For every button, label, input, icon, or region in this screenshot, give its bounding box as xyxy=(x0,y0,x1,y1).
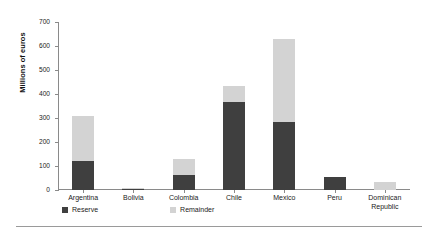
x-axis-label-dominican-republic: Dominican Republic xyxy=(360,194,410,211)
bar-chile[interactable] xyxy=(223,86,245,190)
y-axis-tick-label: 400 xyxy=(10,91,50,98)
y-axis-tick-label: 0 xyxy=(10,187,50,194)
x-axis-label-mexico: Mexico xyxy=(259,194,309,203)
bar-segment-remainder xyxy=(374,182,396,190)
y-axis-tick xyxy=(55,46,59,47)
y-axis-tick-label: 200 xyxy=(10,139,50,146)
y-axis-tick xyxy=(55,22,59,23)
bar-segment-remainder xyxy=(122,188,144,190)
y-axis-tick xyxy=(55,118,59,119)
bar-peru[interactable] xyxy=(324,177,346,190)
y-axis-tick xyxy=(55,166,59,167)
y-axis-tick-label: 600 xyxy=(10,43,50,50)
bar-segment-remainder xyxy=(223,86,245,103)
bar-segment-remainder xyxy=(273,39,295,122)
legend-swatch-icon xyxy=(170,207,176,213)
legend-label: Remainder xyxy=(180,206,214,213)
y-axis-tick xyxy=(55,190,59,191)
bar-segment-reserve xyxy=(173,175,195,190)
x-axis-label-argentina: Argentina xyxy=(58,194,108,203)
y-axis-tick xyxy=(55,142,59,143)
y-axis-tick xyxy=(55,94,59,95)
bar-segment-reserve xyxy=(72,161,94,190)
y-axis-tick-label: 100 xyxy=(10,163,50,170)
bar-segment-remainder xyxy=(72,116,94,162)
chart-legend: ReserveRemainder xyxy=(62,206,214,213)
bar-segment-reserve xyxy=(273,122,295,190)
bar-segment-reserve xyxy=(324,177,346,190)
bottom-divider xyxy=(16,226,422,227)
chart-figure: Millions of euros 0100200300400500600700… xyxy=(0,0,435,240)
bar-dominican-republic[interactable] xyxy=(374,182,396,190)
x-axis-label-colombia: Colombia xyxy=(159,194,209,203)
y-axis-tick-label: 500 xyxy=(10,67,50,74)
x-axis-label-bolivia: Bolivia xyxy=(108,194,158,203)
x-axis-label-chile: Chile xyxy=(209,194,259,203)
y-axis-tick-label: 300 xyxy=(10,115,50,122)
legend-label: Reserve xyxy=(72,206,98,213)
legend-swatch-icon xyxy=(62,207,68,213)
plot-area: 0100200300400500600700ArgentinaBoliviaCo… xyxy=(58,22,410,190)
bar-bolivia[interactable] xyxy=(122,188,144,190)
legend-item-reserve[interactable]: Reserve xyxy=(62,206,98,213)
bar-argentina[interactable] xyxy=(72,116,94,190)
bar-colombia[interactable] xyxy=(173,159,195,190)
y-axis-line xyxy=(58,22,59,190)
bar-mexico[interactable] xyxy=(273,39,295,190)
bar-segment-reserve xyxy=(223,102,245,190)
bar-segment-remainder xyxy=(173,159,195,175)
y-axis-tick-label: 700 xyxy=(10,19,50,26)
x-axis-label-peru: Peru xyxy=(309,194,359,203)
legend-item-remainder[interactable]: Remainder xyxy=(170,206,214,213)
y-axis-tick xyxy=(55,70,59,71)
bar-segment-reserve xyxy=(122,189,144,190)
